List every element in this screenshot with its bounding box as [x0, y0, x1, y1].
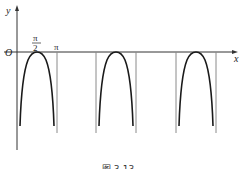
figure-caption: 图 3-13	[102, 164, 134, 169]
asymptotes	[57, 52, 216, 133]
y-axis-label: y	[5, 5, 11, 16]
origin-label: O	[5, 47, 12, 58]
y-axis-arrow-icon	[15, 5, 19, 11]
arch-curve-2	[99, 52, 133, 126]
function-graph: y x O π 2 π 图 3-13	[0, 0, 244, 169]
tick-pi-over-2-numerator: π	[33, 33, 38, 43]
curves	[20, 52, 213, 126]
tick-pi: π	[54, 42, 59, 52]
arch-curve-3	[179, 52, 213, 126]
arch-curve-1	[20, 52, 54, 126]
x-axis-label: x	[233, 53, 239, 64]
